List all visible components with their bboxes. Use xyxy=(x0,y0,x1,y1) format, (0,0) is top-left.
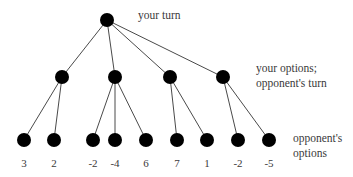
tree-edge xyxy=(115,77,146,140)
tree-node xyxy=(200,133,214,147)
level2-nodes-label: your options; opponent's turn xyxy=(256,61,327,90)
leaves-label-line1: opponent's xyxy=(293,131,342,146)
tree-edge xyxy=(107,20,223,77)
leaf-nodes-label: opponent's options xyxy=(293,131,342,160)
tree-node xyxy=(231,133,245,147)
tree-node xyxy=(47,133,61,147)
tree-node xyxy=(139,133,153,147)
tree-edge xyxy=(93,77,115,140)
leaf-value: -5 xyxy=(264,157,274,169)
leaf-value: 2 xyxy=(51,157,57,169)
tree-edge xyxy=(54,77,62,140)
leaf-value: -4 xyxy=(110,157,120,169)
level2-label-line1: your options; xyxy=(256,61,327,76)
leaf-value: 6 xyxy=(143,157,149,169)
tree-node xyxy=(86,133,100,147)
leaf-value: 7 xyxy=(174,157,180,169)
root-node-label: your turn xyxy=(138,8,180,23)
tree-node xyxy=(100,13,114,27)
leaf-value: -2 xyxy=(88,157,97,169)
tree-node xyxy=(108,70,122,84)
tree-node xyxy=(108,133,122,147)
leaves-label-line2: options xyxy=(293,146,342,161)
leaf-value: 1 xyxy=(204,157,210,169)
tree-edge xyxy=(107,20,115,77)
tree-node xyxy=(163,70,177,84)
tree-edge xyxy=(62,20,107,77)
tree-node xyxy=(170,133,184,147)
tree-node xyxy=(55,70,69,84)
leaf-value: -2 xyxy=(233,157,242,169)
tree-edge xyxy=(24,77,62,140)
game-tree-figure: 32-2-4671-2-5 your turn your options; op… xyxy=(0,0,353,177)
tree-edge xyxy=(107,20,170,77)
tree-node xyxy=(216,70,230,84)
leaf-value: 3 xyxy=(21,157,27,169)
tree-node xyxy=(17,133,31,147)
tree-node xyxy=(262,133,276,147)
level2-label-line2: opponent's turn xyxy=(256,76,327,91)
